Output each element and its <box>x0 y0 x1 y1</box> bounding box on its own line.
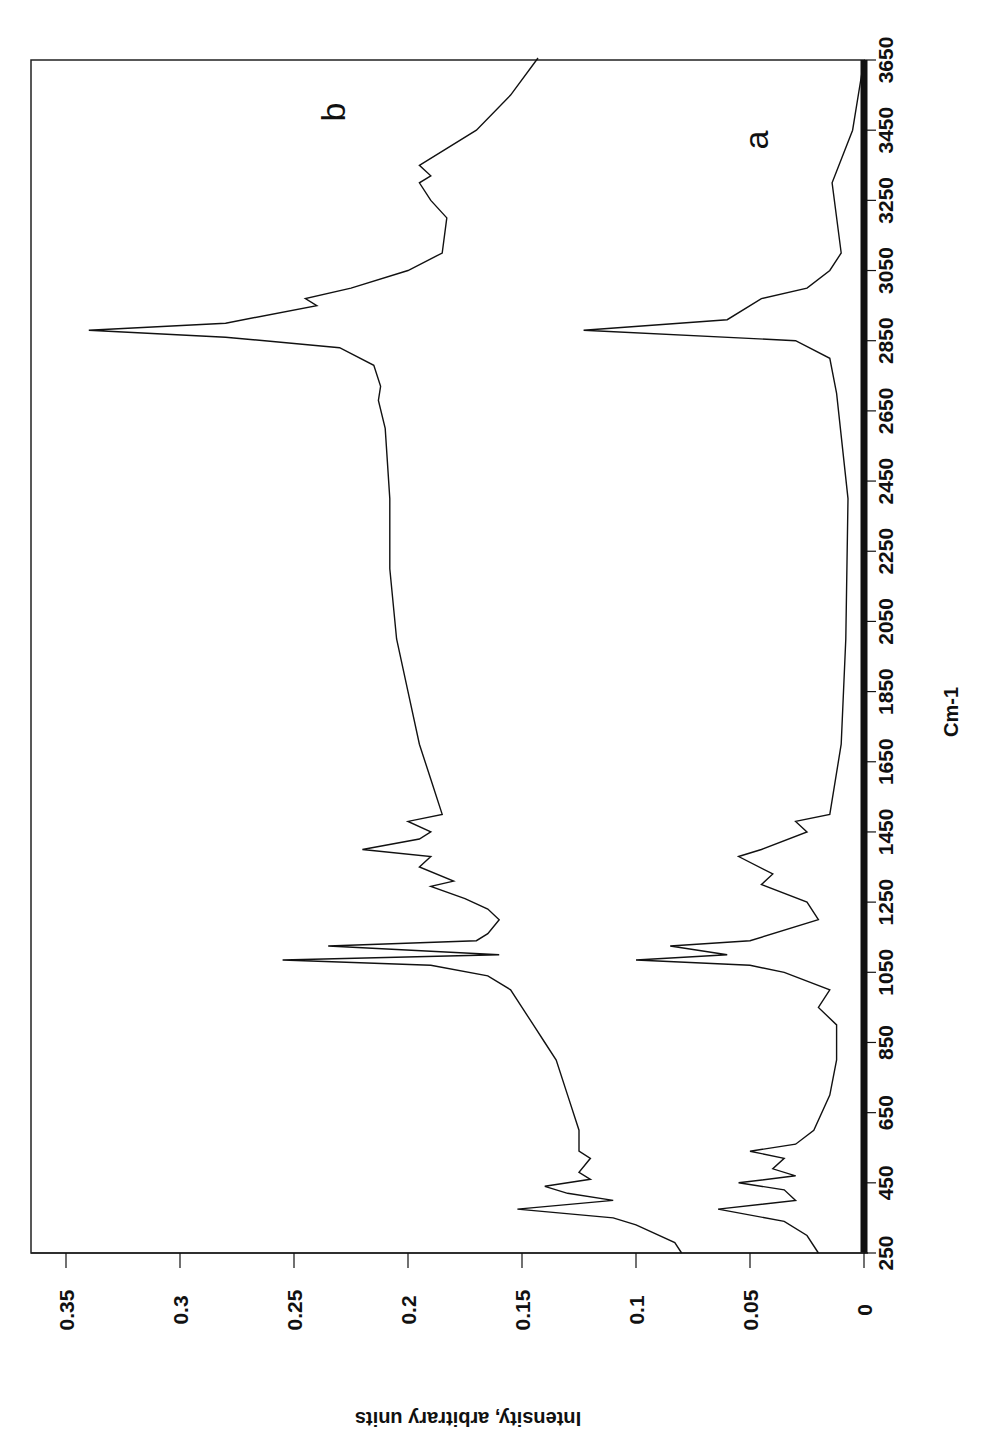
wavenumber-tick-label: 2250 <box>874 528 897 575</box>
intensity-ticks: 00.050.10.150.20.250.30.35 <box>55 1253 876 1330</box>
intensity-tick-label: 0.2 <box>397 1295 420 1324</box>
intensity-tick-label: 0 <box>853 1304 876 1316</box>
series-a-line <box>584 60 864 1253</box>
wavenumber-tick-label: 1450 <box>874 809 897 856</box>
wavenumber-tick-label: 3450 <box>874 107 897 154</box>
wavenumber-tick-label: 850 <box>874 1025 897 1060</box>
intensity-tick-label: 0.25 <box>283 1289 306 1330</box>
wavenumber-ticks: 2504506508501050125014501650185020502250… <box>864 37 897 1271</box>
wavenumber-tick-label: 1250 <box>874 879 897 926</box>
intensity-tick-label: 0.15 <box>511 1289 534 1330</box>
wavenumber-tick-label: 2650 <box>874 388 897 435</box>
intensity-tick-label: 0.35 <box>55 1289 78 1330</box>
wavenumber-tick-label: 1650 <box>874 738 897 785</box>
wavenumber-tick-label: 3050 <box>874 247 897 294</box>
y-axis-title: Intensity, arbitrary units <box>355 1408 581 1430</box>
wavenumber-tick-label: 450 <box>874 1165 897 1200</box>
wavenumber-tick-label: 250 <box>874 1235 897 1270</box>
wavenumber-tick-label: 3650 <box>874 37 897 84</box>
spectrum-chart: 2504506508501050125014501650185020502250… <box>0 0 983 1453</box>
wavenumber-tick-label: 1850 <box>874 668 897 715</box>
intensity-tick-label: 0.05 <box>739 1289 762 1330</box>
wavenumber-tick-label: 2050 <box>874 598 897 645</box>
series-b-label: b <box>314 103 352 122</box>
wavenumber-tick-label: 1050 <box>874 949 897 996</box>
wavenumber-tick-label: 2850 <box>874 317 897 364</box>
x-axis-title: Cm-1 <box>940 687 962 737</box>
plot-frame <box>31 60 864 1253</box>
wavenumber-tick-label: 3250 <box>874 177 897 224</box>
wavenumber-tick-label: 2450 <box>874 458 897 505</box>
wavenumber-tick-label: 650 <box>874 1095 897 1130</box>
intensity-tick-label: 0.1 <box>625 1295 648 1325</box>
series-a-label: a <box>737 130 775 149</box>
intensity-tick-label: 0.3 <box>169 1295 192 1324</box>
series-b-line <box>89 58 682 1253</box>
